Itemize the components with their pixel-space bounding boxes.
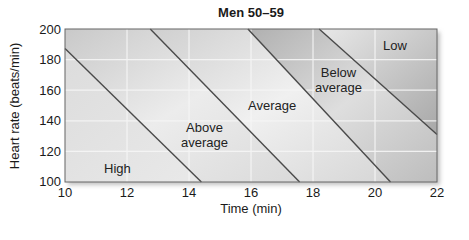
y-tick: 180 (39, 53, 61, 66)
x-tick: 20 (360, 185, 390, 200)
zone-label-above-line1: Above (181, 120, 228, 135)
zone-label-below-line2: average (315, 80, 362, 95)
y-axis-label: Heart rate (beats/min) (7, 43, 22, 169)
y-tick: 120 (39, 145, 61, 158)
zone-label-low: Low (383, 38, 407, 53)
zone-label-high: High (104, 161, 131, 176)
zone-label-below-line1: Below (315, 65, 362, 80)
y-tick: 140 (39, 114, 61, 127)
zone-label-above-line2: average (181, 135, 228, 150)
zone-label-above-average: Above average (181, 120, 228, 150)
y-tick: 200 (39, 23, 61, 36)
x-axis-label: Time (min) (65, 201, 437, 216)
x-tick: 18 (298, 185, 328, 200)
x-tick: 12 (112, 185, 142, 200)
x-tick: 16 (236, 185, 266, 200)
x-tick: 22 (422, 185, 452, 200)
y-tick: 160 (39, 84, 61, 97)
x-tick: 10 (50, 185, 80, 200)
zone-label-below-average: Below average (315, 65, 362, 95)
x-tick: 14 (174, 185, 204, 200)
zone-label-average: Average (248, 98, 296, 113)
